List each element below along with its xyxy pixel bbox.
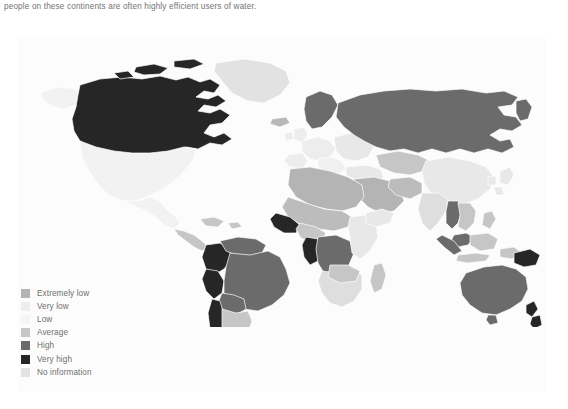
- legend-swatch-very-low: [21, 302, 30, 311]
- region-korea[interactable]: [488, 176, 496, 185]
- legend-label-very-high: Very high: [37, 355, 72, 364]
- world-map[interactable]: [18, 37, 546, 327]
- legend-swatch-high: [21, 341, 30, 350]
- legend-item-low[interactable]: Low: [21, 313, 201, 326]
- legend-label-average: Average: [37, 328, 68, 337]
- legend-label-low: Low: [37, 315, 52, 324]
- figure-caption-text: people on these continents are often hig…: [4, 1, 544, 13]
- legend-swatch-extremely-low: [21, 289, 30, 298]
- legend-swatch-average: [21, 328, 30, 337]
- legend-swatch-very-high: [21, 355, 30, 364]
- legend-label-high: High: [37, 341, 54, 350]
- legend-label-no-information: No information: [37, 368, 92, 377]
- legend-item-extremely-low[interactable]: Extremely low: [21, 287, 201, 300]
- world-map-svg[interactable]: [18, 37, 546, 327]
- legend-item-very-low[interactable]: Very low: [21, 300, 201, 313]
- figure-panel: Extremely low Very low Low Average High …: [18, 37, 546, 391]
- legend-label-extremely-low: Extremely low: [37, 289, 89, 298]
- legend-item-average[interactable]: Average: [21, 326, 201, 339]
- legend-swatch-low: [21, 315, 30, 324]
- legend-item-no-information[interactable]: No information: [21, 366, 201, 379]
- legend-label-very-low: Very low: [37, 302, 69, 311]
- map-legend: Extremely low Very low Low Average High …: [21, 287, 201, 379]
- legend-swatch-no-information: [21, 368, 30, 377]
- legend-item-very-high[interactable]: Very high: [21, 352, 201, 365]
- legend-item-high[interactable]: High: [21, 339, 201, 352]
